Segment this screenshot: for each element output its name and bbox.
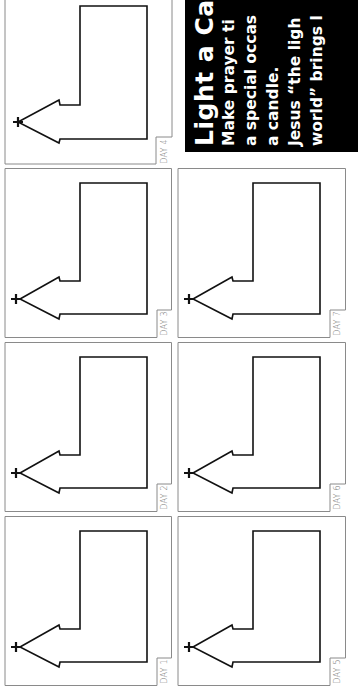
info-box-text: Light a Can Make prayer ti a special occ… <box>185 0 358 152</box>
day-label: DAY 4 <box>157 138 171 164</box>
info-line: world” brings l <box>306 0 328 146</box>
candle-icon <box>4 168 172 338</box>
info-title: Light a Can <box>191 0 218 146</box>
day-label: DAY 1 <box>157 658 171 684</box>
candle-icon <box>177 168 345 338</box>
candle-icon <box>4 342 172 512</box>
day-label: DAY 3 <box>157 310 171 336</box>
day-panel-7[interactable]: DAY 7 <box>177 168 345 338</box>
info-line: Make prayer ti <box>218 0 240 146</box>
day-panel-6[interactable]: DAY 6 <box>177 342 345 512</box>
day-panel-3[interactable]: DAY 3 <box>4 168 172 338</box>
info-line: Jesus “the ligh <box>284 0 306 146</box>
candle-icon <box>177 516 345 686</box>
day-panel-2[interactable]: DAY 2 <box>4 342 172 512</box>
info-line: a special occas <box>240 0 262 146</box>
info-box: Light a Can Make prayer ti a special occ… <box>185 0 358 152</box>
day-label: DAY 7 <box>330 310 344 336</box>
candle-icon <box>4 516 172 686</box>
day-panel-5[interactable]: DAY 5 <box>177 516 345 686</box>
day-label: DAY 5 <box>330 658 344 684</box>
day-panel-4[interactable]: DAY 4 <box>4 0 172 166</box>
day-label: DAY 6 <box>330 484 344 510</box>
info-line: a candle. <box>262 0 284 146</box>
day-label: DAY 2 <box>157 484 171 510</box>
candle-icon <box>4 0 172 166</box>
day-panel-1[interactable]: DAY 1 <box>4 516 172 686</box>
candle-icon <box>177 342 345 512</box>
